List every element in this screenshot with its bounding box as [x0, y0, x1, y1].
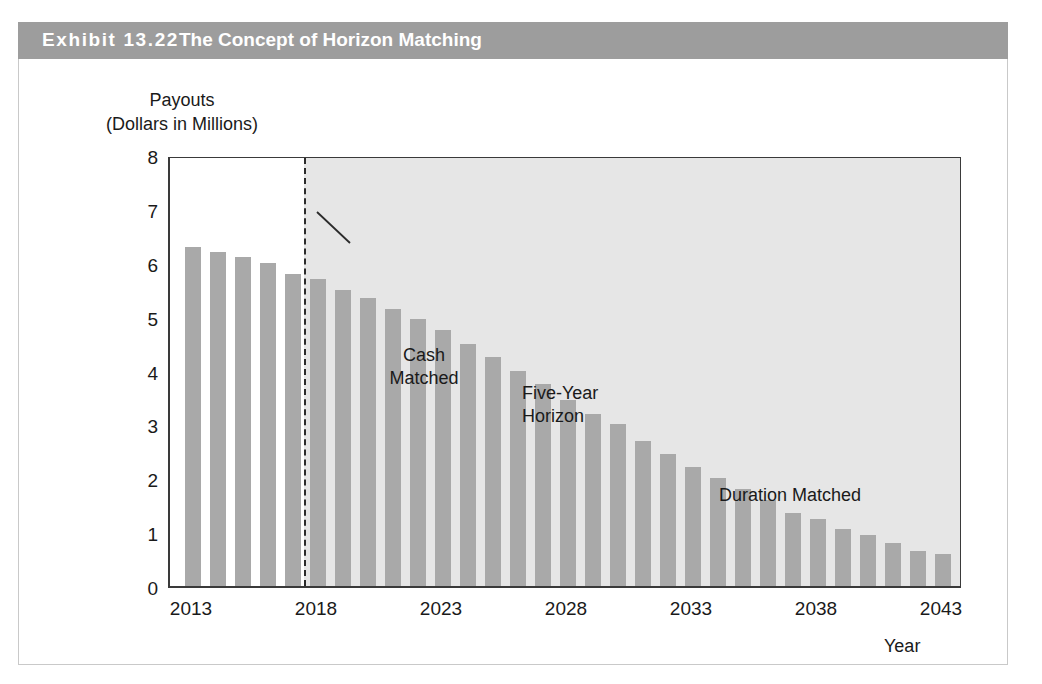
- bar: [260, 263, 277, 586]
- bar: [610, 424, 627, 586]
- y-axis-tick-label: 3: [128, 417, 158, 436]
- bar: [360, 298, 377, 586]
- x-axis-tick-label: 2043: [901, 598, 981, 620]
- annotation-cash-matched: Cash Matched: [364, 344, 484, 391]
- y-axis-tick-label: 0: [128, 579, 158, 598]
- bar: [885, 543, 902, 586]
- y-axis-tick-label: 5: [128, 310, 158, 329]
- exhibit-title-text: The Concept of Horizon Matching: [179, 29, 482, 50]
- x-axis-tick-label: 2033: [651, 598, 731, 620]
- y-axis-tick-label: 2: [128, 471, 158, 490]
- five-year-horizon-line: [304, 158, 306, 586]
- exhibit-figure: Exhibit 13.22The Concept of Horizon Matc…: [0, 0, 1042, 684]
- x-axis-ticks: 2013201820232028203320382043: [168, 598, 961, 628]
- exhibit-title: Exhibit 13.22The Concept of Horizon Matc…: [42, 29, 482, 51]
- y-axis-title-line2: (Dollars in Millions): [62, 112, 302, 136]
- bar: [485, 357, 502, 586]
- y-axis-tick-label: 6: [128, 256, 158, 275]
- x-axis-tick-label: 2018: [276, 598, 356, 620]
- bar: [810, 519, 827, 586]
- plot-area: Cash Matched Five-Year Horizon Duration …: [168, 157, 961, 588]
- bar-series: [170, 158, 960, 586]
- bar: [760, 500, 777, 586]
- x-axis-tick-label: 2038: [776, 598, 856, 620]
- y-axis-tick-label: 1: [128, 525, 158, 544]
- bar: [860, 535, 877, 586]
- bar: [235, 257, 252, 586]
- bar: [785, 513, 802, 586]
- bar: [835, 529, 852, 586]
- annotation-five-year-horizon: Five-Year Horizon: [522, 382, 672, 429]
- y-axis-tick-label: 4: [128, 364, 158, 383]
- bar: [210, 252, 227, 586]
- bar: [635, 441, 652, 586]
- y-axis-tick-label: 7: [128, 202, 158, 221]
- y-axis-ticks: 876543210: [122, 157, 158, 588]
- bar: [910, 551, 927, 586]
- bar: [935, 554, 952, 586]
- bar: [660, 454, 677, 586]
- x-axis-tick-label: 2013: [151, 598, 231, 620]
- x-axis-tick-label: 2023: [401, 598, 481, 620]
- y-axis-title-line1: Payouts: [62, 88, 302, 112]
- x-axis-title: Year: [884, 636, 920, 657]
- exhibit-number: Exhibit 13.22: [42, 29, 179, 50]
- y-axis-tick-label: 8: [128, 148, 158, 167]
- annotation-duration-matched: Duration Matched: [680, 484, 900, 507]
- bar: [310, 279, 327, 586]
- exhibit-title-band: Exhibit 13.22The Concept of Horizon Matc…: [18, 22, 1008, 59]
- y-axis-title: Payouts (Dollars in Millions): [62, 88, 302, 137]
- bar: [335, 290, 352, 586]
- bar: [185, 247, 202, 586]
- x-axis-tick-label: 2028: [526, 598, 606, 620]
- bar: [585, 414, 602, 586]
- bar: [285, 274, 302, 586]
